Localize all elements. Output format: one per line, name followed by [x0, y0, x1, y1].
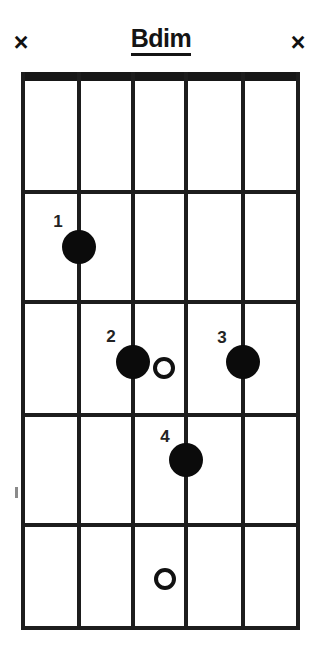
mute-x-icon-string-1: × [286, 30, 310, 54]
fretboard: 1 2 3 4 [21, 72, 300, 630]
fret-line-1 [21, 190, 300, 194]
finger-dot-2 [116, 345, 150, 379]
scan-artifact [15, 487, 18, 498]
string-line-6 [21, 72, 25, 630]
fret-line-5 [21, 626, 300, 630]
finger-number-2: 2 [101, 327, 121, 347]
nut [21, 72, 300, 81]
fret-line-2 [21, 300, 300, 304]
finger-dot-3 [226, 345, 260, 379]
open-circle-fret-5 [154, 568, 176, 590]
finger-number-3: 3 [212, 328, 232, 348]
finger-number-1: 1 [48, 212, 68, 232]
string-line-1 [296, 72, 300, 630]
page-title: Bdim [0, 26, 322, 51]
finger-dot-1 [62, 230, 96, 264]
finger-dot-4 [169, 443, 203, 477]
fret-line-4 [21, 523, 300, 527]
string-line-5 [77, 72, 81, 630]
fret-line-3 [21, 413, 300, 417]
string-line-3 [184, 72, 188, 630]
chord-name: Bdim [131, 24, 192, 56]
chord-diagram-sheet: Bdim × × 1 2 3 4 [0, 0, 322, 658]
open-circle-fret-3 [153, 357, 175, 379]
finger-number-4: 4 [155, 427, 175, 447]
mute-x-icon-string-6: × [9, 30, 33, 54]
